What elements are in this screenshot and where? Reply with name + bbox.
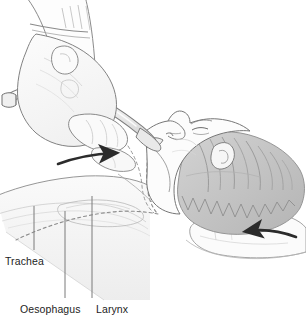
label-larynx: Larynx bbox=[96, 303, 129, 315]
illustration-canvas: Trachea Oesophagus Larynx bbox=[0, 0, 306, 322]
intubation-illustration: Trachea Oesophagus Larynx bbox=[0, 0, 306, 322]
label-trachea: Trachea bbox=[5, 255, 44, 267]
label-oesophagus: Oesophagus bbox=[20, 303, 81, 315]
